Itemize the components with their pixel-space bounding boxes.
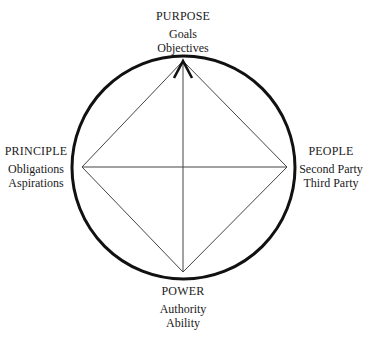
node-item: Goals	[133, 27, 233, 41]
node-title: PEOPLE	[296, 144, 366, 158]
diamond-lines	[82, 61, 287, 272]
node-title: PURPOSE	[133, 9, 233, 23]
node-title: PRINCIPLE	[0, 144, 72, 158]
node-title: POWER	[133, 284, 233, 298]
node-purpose: PURPOSE Goals Objectives	[133, 9, 233, 55]
node-item: Second Party	[296, 162, 366, 176]
edge-purpose-people	[183, 61, 287, 167]
node-people: PEOPLE Second Party Third Party	[296, 144, 366, 190]
edge-people-power	[183, 167, 287, 272]
edge-power-principle	[82, 167, 183, 272]
node-principle: PRINCIPLE Obligations Aspirations	[0, 144, 72, 190]
node-item: Authority	[133, 302, 233, 316]
node-item: Third Party	[296, 176, 366, 190]
node-item: Objectives	[133, 41, 233, 55]
node-item: Ability	[133, 316, 233, 330]
node-item: Aspirations	[0, 176, 72, 190]
node-item: Obligations	[0, 162, 72, 176]
node-power: POWER Authority Ability	[133, 284, 233, 330]
edge-principle-purpose	[82, 61, 183, 167]
